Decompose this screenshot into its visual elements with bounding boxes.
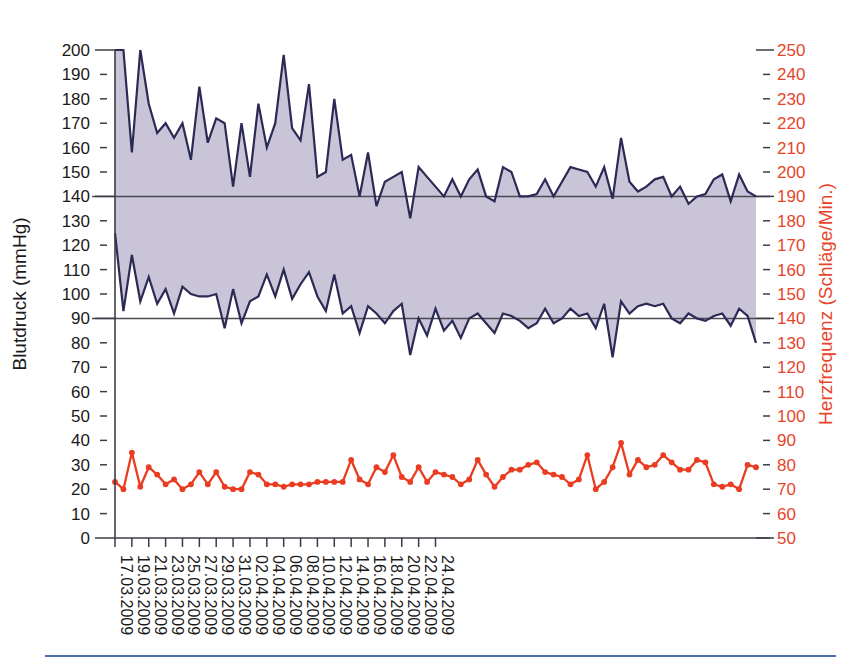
right-tick-label: 190 xyxy=(777,187,805,206)
heart-rate-point xyxy=(492,484,498,490)
x-axis-date-label: 18.04.2009 xyxy=(388,555,405,635)
x-axis-date-label: 02.04.2009 xyxy=(253,555,270,635)
heart-rate-point xyxy=(399,474,405,480)
heart-rate-point xyxy=(205,481,211,487)
heart-rate-point xyxy=(669,459,675,465)
heart-rate-markers xyxy=(112,440,759,492)
heart-rate-point xyxy=(660,452,666,458)
heart-rate-point xyxy=(424,479,430,485)
left-tick-label: 100 xyxy=(62,285,90,304)
heart-rate-point xyxy=(441,472,447,478)
heart-rate-point xyxy=(137,484,143,490)
heart-rate-point xyxy=(239,486,245,492)
heart-rate-point xyxy=(618,440,624,446)
heart-rate-point xyxy=(475,457,481,463)
left-tick-label: 10 xyxy=(71,505,90,524)
x-axis-date-label: 31.03.2009 xyxy=(236,555,253,635)
heart-rate-point xyxy=(635,457,641,463)
right-tick-label: 180 xyxy=(777,212,805,231)
heart-rate-point xyxy=(728,481,734,487)
x-axis-date-label: 27.03.2009 xyxy=(202,555,219,635)
x-axis-date-label: 14.04.2009 xyxy=(354,555,371,635)
right-tick-label: 240 xyxy=(777,65,805,84)
right-tick-label: 50 xyxy=(777,529,796,548)
heart-rate-point xyxy=(601,479,607,485)
right-tick-label: 80 xyxy=(777,456,796,475)
heart-rate-line xyxy=(115,443,756,489)
right-axis-title: Herzfrequenz (Schläge/Min.) xyxy=(815,183,836,425)
heart-rate-point xyxy=(593,486,599,492)
x-axis-date-label: 23.03.2009 xyxy=(169,555,186,635)
left-tick-label: 30 xyxy=(71,456,90,475)
right-tick-label: 140 xyxy=(777,309,805,328)
heart-rate-point xyxy=(129,450,135,456)
blood-pressure-heartrate-chart: 0102030405060708090100110120130140150160… xyxy=(0,0,848,671)
right-tick-label: 220 xyxy=(777,114,805,133)
heart-rate-point xyxy=(315,479,321,485)
heart-rate-point xyxy=(154,472,160,478)
left-tick-label: 130 xyxy=(62,212,90,231)
heart-rate-point xyxy=(652,462,658,468)
heart-rate-point xyxy=(702,459,708,465)
x-axis-date-label: 21.03.2009 xyxy=(152,555,169,635)
heart-rate-point xyxy=(255,472,261,478)
left-tick-label: 0 xyxy=(81,529,90,548)
heart-rate-point xyxy=(163,481,169,487)
heart-rate-point xyxy=(272,481,278,487)
left-tick-label: 150 xyxy=(62,163,90,182)
x-axis-date-label: 16.04.2009 xyxy=(371,555,388,635)
heart-rate-point xyxy=(340,479,346,485)
right-tick-label: 210 xyxy=(777,139,805,158)
left-tick-label: 40 xyxy=(71,431,90,450)
right-tick-label: 250 xyxy=(777,41,805,60)
heart-rate-point xyxy=(686,467,692,473)
left-tick-label: 90 xyxy=(71,309,90,328)
heart-rate-point xyxy=(264,481,270,487)
heart-rate-point xyxy=(576,477,582,483)
left-tick-label: 110 xyxy=(63,261,90,280)
left-tick-label: 70 xyxy=(71,358,90,377)
heart-rate-point xyxy=(357,477,363,483)
heart-rate-point xyxy=(542,469,548,475)
heart-rate-point xyxy=(331,479,337,485)
heart-rate-point xyxy=(146,464,152,470)
left-tick-label: 180 xyxy=(62,90,90,109)
right-tick-label: 90 xyxy=(777,431,796,450)
heart-rate-point xyxy=(551,472,557,478)
right-tick-label: 230 xyxy=(777,90,805,109)
heart-rate-point xyxy=(719,484,725,490)
heart-rate-point xyxy=(213,469,219,475)
heart-rate-point xyxy=(500,474,506,480)
heart-rate-point xyxy=(416,464,422,470)
heart-rate-point xyxy=(610,464,616,470)
left-tick-label: 60 xyxy=(71,383,90,402)
heart-rate-point xyxy=(559,474,565,480)
left-tick-label: 140 xyxy=(62,187,90,206)
right-tick-label: 200 xyxy=(777,163,805,182)
right-tick-label: 60 xyxy=(777,505,796,524)
heart-rate-point xyxy=(407,479,413,485)
heart-rate-point xyxy=(382,469,388,475)
x-axis-date-label: 29.03.2009 xyxy=(219,555,236,635)
heart-rate-point xyxy=(736,486,742,492)
heart-rate-point xyxy=(306,481,312,487)
x-axis-date-label: 10.04.2009 xyxy=(320,555,337,635)
left-tick-label: 170 xyxy=(62,114,90,133)
x-axis-date-label: 24.04.2009 xyxy=(439,555,456,635)
x-axis-date-label: 08.04.2009 xyxy=(304,555,321,635)
heart-rate-point xyxy=(584,452,590,458)
right-axis: 5060708090100110120130140150160170180190… xyxy=(756,41,805,548)
heart-rate-point xyxy=(753,464,759,470)
x-axis-date-label: 22.04.2009 xyxy=(422,555,439,635)
left-tick-label: 50 xyxy=(71,407,90,426)
right-tick-label: 150 xyxy=(777,285,805,304)
x-axis-date-label: 06.04.2009 xyxy=(287,555,304,635)
right-tick-label: 100 xyxy=(777,407,805,426)
left-tick-label: 160 xyxy=(62,139,90,158)
heart-rate-point xyxy=(517,467,523,473)
chart-canvas: 0102030405060708090100110120130140150160… xyxy=(0,0,848,671)
left-tick-label: 120 xyxy=(62,236,90,255)
x-axis-date-label: 20.04.2009 xyxy=(405,555,422,635)
heart-rate-point xyxy=(365,481,371,487)
heart-rate-point xyxy=(222,484,228,490)
